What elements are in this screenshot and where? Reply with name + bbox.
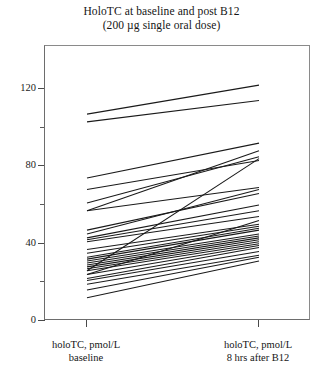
y-axis-tick-label: 0 [2, 315, 36, 325]
x-axis-tick [258, 320, 259, 327]
x-axis-tick-label-line2: 8 hrs after B12 [193, 351, 323, 364]
slope-lines-svg [45, 46, 311, 321]
plot-area [44, 45, 310, 320]
x-axis-tick-label: holoTC, pmol/Lbaseline [21, 338, 151, 364]
slope-line-subject-01 [87, 85, 259, 114]
x-axis-tick-label-line1: holoTC, pmol/L [21, 338, 151, 351]
y-axis-tick-label: 120 [2, 83, 36, 93]
slope-line-subject-03 [87, 143, 259, 178]
y-axis-tick-label: 40 [2, 238, 36, 248]
x-axis-tick-label-line1: holoTC, pmol/L [193, 338, 323, 351]
slope-line-subject-04 [87, 151, 259, 211]
slope-line-subject-21 [87, 238, 259, 265]
x-axis-tick [86, 320, 87, 327]
slope-line-subject-02 [87, 101, 259, 122]
y-axis-tick-major [38, 320, 45, 321]
y-axis-tick-label: 80 [2, 160, 36, 170]
holotc-slope-chart-figure: HoloTC at baseline and post B12 (200 µg … [0, 0, 323, 380]
x-axis-tick-label: holoTC, pmol/L8 hrs after B12 [193, 338, 323, 364]
x-axis-tick-label-line2: baseline [21, 351, 151, 364]
